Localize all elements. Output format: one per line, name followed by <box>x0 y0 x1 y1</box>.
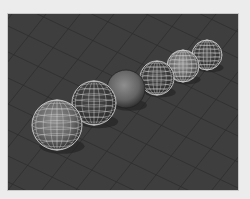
scene-canvas[interactable] <box>8 14 238 190</box>
3d-viewport[interactable] <box>8 14 238 190</box>
